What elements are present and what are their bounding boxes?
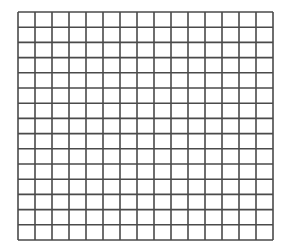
square-grid	[17, 11, 274, 241]
grid-lines	[17, 11, 274, 241]
